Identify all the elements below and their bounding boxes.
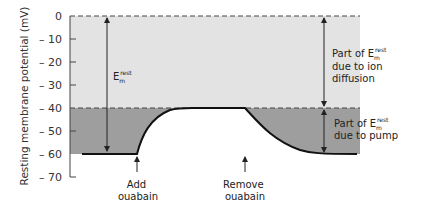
svg-text:– 50: – 50 [39, 125, 62, 138]
y-axis-label: Resting membrane potential (mV) [18, 7, 30, 186]
svg-text:– 60: – 60 [39, 148, 62, 161]
svg-text:diffusion: diffusion [332, 73, 375, 84]
remove-ouabain-label: Remove ouabain [223, 179, 267, 202]
svg-text:– 70: – 70 [39, 171, 62, 184]
diffusion-label: Part of Emrest due to ion diffusion [332, 46, 387, 84]
svg-text:due to ion: due to ion [332, 61, 382, 72]
svg-text:Part of Emrest: Part of Emrest [332, 46, 387, 61]
y-tick-labels: 0 – 10 – 20 – 30 – 40 – 50 – 60 – 70 [39, 10, 62, 184]
svg-text:Part of Emrest: Part of Emrest [334, 116, 389, 131]
membrane-potential-chart: 0 – 10 – 20 – 30 – 40 – 50 – 60 – 70 Res… [0, 0, 428, 211]
svg-text:– 40: – 40 [39, 102, 62, 115]
pump-label: Part of Emrest due to pump [334, 116, 398, 141]
svg-text:0: 0 [55, 10, 62, 23]
add-ouabain-label: Add ouabain [118, 179, 158, 202]
ion-diffusion-region [70, 16, 360, 108]
svg-text:– 30: – 30 [39, 79, 62, 92]
svg-text:– 20: – 20 [39, 56, 62, 69]
svg-text:due to pump: due to pump [334, 130, 398, 141]
svg-text:– 10: – 10 [39, 33, 62, 46]
